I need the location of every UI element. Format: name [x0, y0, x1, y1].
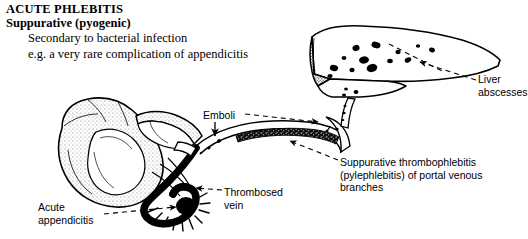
- heading-body-line-1: Secondary to bacterial infection: [28, 31, 346, 47]
- leader-thrombophlebitis: [290, 141, 338, 160]
- leader-thrombosed-vein: [196, 188, 222, 190]
- heading-block: ACUTE PHLEBITIS Suppurative (pyogenic) S…: [6, 2, 346, 62]
- label-acute-appendicitis: Acute appendicitis: [38, 201, 93, 226]
- heading-body-line-2: e.g. a very rare complication of appendi…: [28, 47, 346, 63]
- label-emboli: Emboli: [203, 109, 235, 122]
- label-suppurative-thrombophlebitis: Suppurative thrombophlebitis (pylephlebi…: [340, 156, 482, 194]
- portal-vein: [196, 98, 355, 154]
- leader-acute-appendicitis: [104, 207, 176, 214]
- label-thrombosed-vein: Thrombosed vein: [224, 186, 283, 211]
- label-liver-abscesses: Liver abscesses: [478, 73, 528, 98]
- page-subtitle: Suppurative (pyogenic): [6, 16, 346, 31]
- page-title: ACUTE PHLEBITIS: [6, 2, 346, 16]
